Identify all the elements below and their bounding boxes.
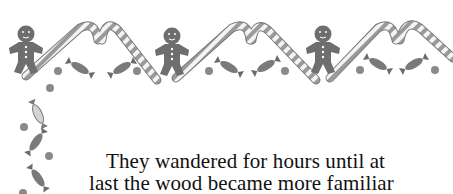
wrapped-candy-icon	[107, 57, 137, 79]
wrapped-candy-icon	[363, 53, 393, 75]
story-line-1: They wandered for hours until at	[106, 151, 385, 172]
left-border-candies	[19, 84, 54, 194]
storybook-page: They wandered for hours until at last th…	[0, 0, 453, 194]
wrapped-candy-icon	[399, 53, 429, 75]
wrapped-candy-icon	[24, 127, 48, 156]
wrapped-candy-icon	[214, 56, 244, 78]
story-line-2: last the wood became more familiar	[89, 173, 394, 194]
wrapped-candy-icon	[26, 163, 50, 192]
wrapped-candy-icon	[251, 55, 281, 77]
wrapped-candy-icon	[28, 99, 48, 130]
wrapped-candy-icon	[65, 57, 95, 79]
